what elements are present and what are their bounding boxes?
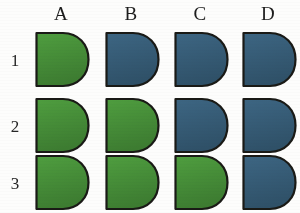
shape-3-B: [103, 153, 161, 212]
d-shape-icon: [172, 96, 230, 155]
shape-1-B: [103, 30, 161, 89]
d-shape-icon: [103, 30, 161, 89]
shape-2-C: [172, 96, 230, 155]
d-shape-icon: [240, 153, 298, 212]
shape-2-D: [240, 96, 298, 155]
shape-3-C: [172, 153, 230, 212]
d-shape-icon: [172, 30, 230, 89]
d-shape-icon: [33, 30, 91, 89]
row-label-2: 2: [2, 116, 28, 138]
column-header-A: A: [32, 2, 90, 26]
column-header-B: B: [102, 2, 160, 26]
d-shape-icon: [103, 96, 161, 155]
shape-3-D: [240, 153, 298, 212]
d-shape-icon: [33, 153, 91, 212]
shape-3-A: [33, 153, 91, 212]
d-shape-icon: [240, 30, 298, 89]
column-header-D: D: [239, 2, 297, 26]
shape-2-A: [33, 96, 91, 155]
shape-1-D: [240, 30, 298, 89]
row-label-3: 3: [2, 173, 28, 195]
d-shape-icon: [103, 153, 161, 212]
column-header-C: C: [171, 2, 229, 26]
shape-2-B: [103, 96, 161, 155]
row-label-1: 1: [2, 50, 28, 72]
d-shape-icon: [33, 96, 91, 155]
shape-1-C: [172, 30, 230, 89]
shape-1-A: [33, 30, 91, 89]
d-shape-icon: [172, 153, 230, 212]
d-shape-icon: [240, 96, 298, 155]
shape-grid-figure: ABCD123: [0, 0, 300, 213]
